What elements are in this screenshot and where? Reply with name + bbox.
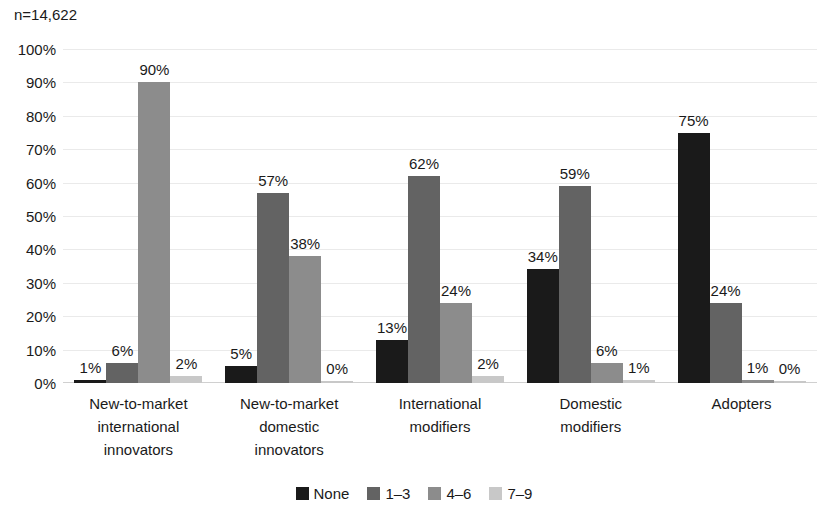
bar[interactable] bbox=[74, 380, 106, 383]
bar-group: 13%62%24%2% bbox=[365, 49, 516, 383]
y-axis-tick-label: 60% bbox=[26, 175, 56, 190]
bar-group-bars: 1%6%90%2% bbox=[63, 49, 214, 383]
legend-swatch-icon bbox=[367, 487, 380, 500]
bar[interactable] bbox=[289, 256, 321, 383]
bar[interactable] bbox=[559, 186, 591, 383]
y-axis-tick-label: 80% bbox=[26, 108, 56, 123]
x-axis-category-label: Domesticmodifiers bbox=[515, 392, 666, 438]
bar-value-label: 0% bbox=[326, 361, 348, 376]
legend-label: 4–6 bbox=[446, 486, 471, 501]
bar-value-label: 62% bbox=[409, 156, 439, 171]
bar-slot: 0% bbox=[321, 49, 353, 383]
bar-value-label: 38% bbox=[290, 236, 320, 251]
bar-group-bars: 75%24%1%0% bbox=[666, 49, 817, 383]
bar-group-bars: 34%59%6%1% bbox=[515, 49, 666, 383]
bar-slot: 24% bbox=[710, 49, 742, 383]
bar[interactable] bbox=[591, 363, 623, 383]
bar-group: 5%57%38%0% bbox=[214, 49, 365, 383]
bar[interactable] bbox=[138, 82, 170, 383]
legend-label: 1–3 bbox=[385, 486, 410, 501]
bar-value-label: 24% bbox=[441, 283, 471, 298]
bar[interactable] bbox=[321, 381, 353, 383]
x-axis-category-label-line: Domestic bbox=[515, 392, 666, 415]
bar-value-label: 34% bbox=[528, 249, 558, 264]
legend-swatch-icon bbox=[296, 487, 309, 500]
y-axis-tick-label: 100% bbox=[18, 42, 56, 57]
bar-slot: 34% bbox=[527, 49, 559, 383]
bar-value-label: 13% bbox=[377, 320, 407, 335]
bar-value-label: 5% bbox=[230, 346, 252, 361]
legend-label: None bbox=[314, 486, 350, 501]
bar-value-label: 1% bbox=[80, 360, 102, 375]
legend-item[interactable]: 1–3 bbox=[367, 486, 410, 501]
bar[interactable] bbox=[106, 363, 138, 383]
plot-area: 1%6%90%2%5%57%38%0%13%62%24%2%34%59%6%1%… bbox=[63, 49, 817, 383]
bar-value-label: 24% bbox=[711, 283, 741, 298]
bar[interactable] bbox=[710, 303, 742, 383]
bar-group: 34%59%6%1% bbox=[515, 49, 666, 383]
bar-group-bars: 13%62%24%2% bbox=[365, 49, 516, 383]
bar[interactable] bbox=[678, 133, 710, 384]
y-axis-tick-label: 0% bbox=[34, 376, 56, 391]
legend-item[interactable]: None bbox=[296, 486, 350, 501]
bar[interactable] bbox=[742, 380, 774, 383]
bar-value-label: 6% bbox=[112, 343, 134, 358]
bar[interactable] bbox=[774, 381, 806, 383]
y-axis-tick-label: 50% bbox=[26, 209, 56, 224]
bar[interactable] bbox=[623, 380, 655, 383]
x-axis-category-label-line: modifiers bbox=[365, 415, 516, 438]
bar[interactable] bbox=[225, 366, 257, 383]
bar[interactable] bbox=[257, 193, 289, 383]
bar-slot: 62% bbox=[408, 49, 440, 383]
y-axis-tick-label: 20% bbox=[26, 309, 56, 324]
y-axis-tick-label: 30% bbox=[26, 275, 56, 290]
bar-group: 75%24%1%0% bbox=[666, 49, 817, 383]
bar-slot: 1% bbox=[623, 49, 655, 383]
y-axis-tick-label: 40% bbox=[26, 242, 56, 257]
bar-slot: 38% bbox=[289, 49, 321, 383]
bar-slot: 75% bbox=[678, 49, 710, 383]
bar-slot: 5% bbox=[225, 49, 257, 383]
y-axis-tick-label: 10% bbox=[26, 342, 56, 357]
x-axis-category-label-line: Adopters bbox=[666, 392, 817, 415]
bar-slot: 0% bbox=[774, 49, 806, 383]
x-axis-category-label-line: domestic bbox=[214, 415, 365, 438]
x-axis-category-label: New-to-marketinternationalinnovators bbox=[63, 392, 214, 461]
x-axis-category-label-line: modifiers bbox=[515, 415, 666, 438]
y-axis-tick-label: 90% bbox=[26, 75, 56, 90]
legend-label: 7–9 bbox=[507, 486, 532, 501]
bar-value-label: 75% bbox=[679, 113, 709, 128]
bar-slot: 90% bbox=[138, 49, 170, 383]
bar-slot: 2% bbox=[472, 49, 504, 383]
bar-slot: 1% bbox=[74, 49, 106, 383]
legend-item[interactable]: 7–9 bbox=[489, 486, 532, 501]
x-axis-category-label-line: New-to-market bbox=[63, 392, 214, 415]
bar-value-label: 90% bbox=[139, 62, 169, 77]
legend-item[interactable]: 4–6 bbox=[428, 486, 471, 501]
x-axis-category-label: Internationalmodifiers bbox=[365, 392, 516, 438]
bar-chart: n=14,622 0%10%20%30%40%50%60%70%80%90%10… bbox=[0, 0, 828, 517]
bar-slot: 1% bbox=[742, 49, 774, 383]
bar[interactable] bbox=[527, 269, 559, 383]
bar-slot: 2% bbox=[170, 49, 202, 383]
bar-slot: 6% bbox=[591, 49, 623, 383]
bar-value-label: 1% bbox=[747, 360, 769, 375]
bar-value-label: 2% bbox=[176, 356, 198, 371]
bar-value-label: 57% bbox=[258, 173, 288, 188]
bar[interactable] bbox=[408, 176, 440, 383]
x-axis: New-to-marketinternationalinnovatorsNew-… bbox=[63, 392, 817, 472]
bar[interactable] bbox=[376, 340, 408, 383]
chart-legend: None1–34–67–9 bbox=[0, 486, 828, 501]
x-axis-category-label-line: innovators bbox=[214, 438, 365, 461]
y-axis-tick-label: 70% bbox=[26, 142, 56, 157]
bar-slot: 6% bbox=[106, 49, 138, 383]
bar[interactable] bbox=[440, 303, 472, 383]
legend-swatch-icon bbox=[428, 487, 441, 500]
bar-slot: 24% bbox=[440, 49, 472, 383]
bar[interactable] bbox=[170, 376, 202, 383]
x-axis-category-label-line: international bbox=[63, 415, 214, 438]
bar-value-label: 2% bbox=[477, 356, 499, 371]
bar-slot: 57% bbox=[257, 49, 289, 383]
bar[interactable] bbox=[472, 376, 504, 383]
x-axis-category-label-line: New-to-market bbox=[214, 392, 365, 415]
